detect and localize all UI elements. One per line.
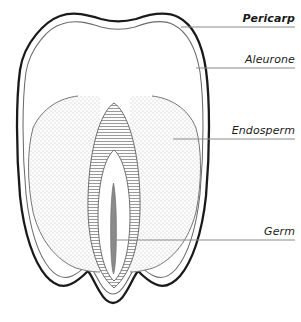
label-endosperm: Endosperm bbox=[232, 125, 295, 137]
label-germ: Germ bbox=[264, 226, 295, 238]
label-pericarp: Pericarp bbox=[243, 13, 295, 25]
kernel-diagram: Pericarp Aleurone Endosperm Germ bbox=[0, 0, 301, 322]
embryonic-axis bbox=[111, 183, 117, 274]
label-aleurone: Aleurone bbox=[245, 54, 295, 66]
kernel-illustration bbox=[0, 0, 301, 322]
